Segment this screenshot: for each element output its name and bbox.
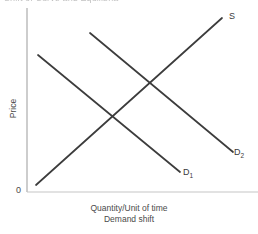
supply-curve-label: S (229, 11, 235, 21)
y-axis-label: Price (9, 89, 18, 129)
chart-canvas (0, 0, 258, 234)
x-axis-sublabel: Demand shift (0, 214, 258, 225)
demand-curve-d1-label-subscript: 1 (190, 172, 194, 179)
supply-demand-figure: Shift of Curve and Equilibria Price 0 S (0, 0, 258, 234)
demand-curve-d1 (38, 55, 180, 172)
x-axis-label: Quantity/Unit of time (90, 203, 167, 213)
x-axis-caption: Quantity/Unit of time Demand shift (0, 203, 258, 225)
demand-curve-d2-label-subscript: 2 (241, 152, 245, 159)
supply-curve-s (36, 18, 222, 185)
demand-curve-d2 (90, 33, 233, 152)
axes-group (27, 8, 258, 192)
demand-curve-d1-label: D1 (183, 167, 193, 179)
supply-curve-label-text: S (229, 11, 235, 21)
origin-label: 0 (16, 186, 21, 195)
curves-group (36, 18, 233, 185)
demand-curve-d2-label: D2 (234, 147, 244, 159)
